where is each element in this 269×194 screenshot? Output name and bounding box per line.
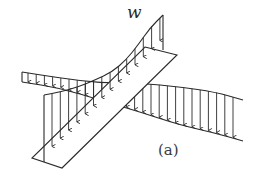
diagonal-strip-outline [32,47,177,168]
load-label-w: w [127,4,142,21]
diagonal-strip-plate [32,47,177,168]
crossing-strips-diagram [0,0,269,194]
panel-label: (a) [158,143,179,158]
